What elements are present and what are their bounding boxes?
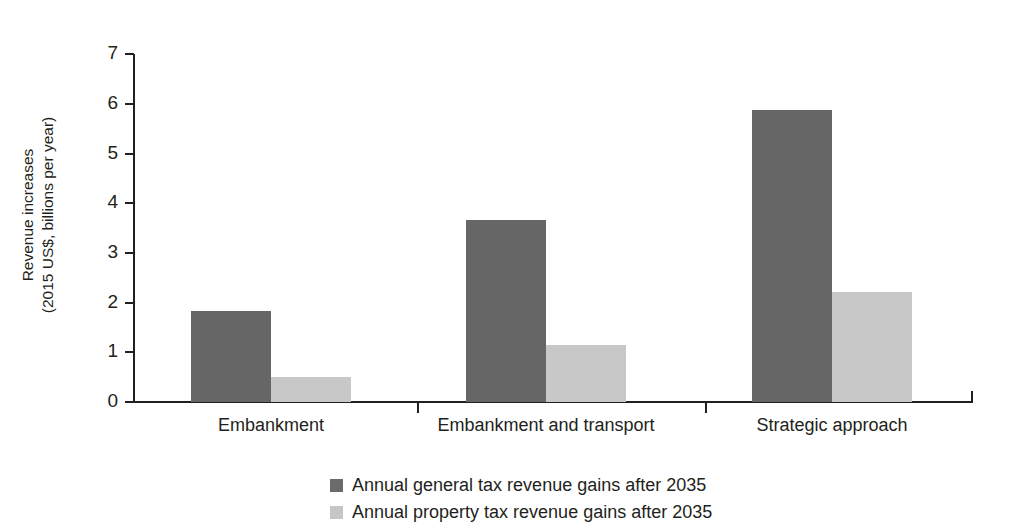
legend-item-label: Annual general tax revenue gains after 2… <box>352 475 706 496</box>
x-axis-tick <box>417 403 419 413</box>
bar <box>191 311 271 402</box>
y-axis-tick <box>125 53 134 55</box>
y-axis-tick <box>125 202 134 204</box>
legend-item: Annual general tax revenue gains after 2… <box>330 472 712 499</box>
bar <box>546 345 626 402</box>
bar <box>832 292 912 402</box>
y-axis-tick-label: 3 <box>86 241 118 263</box>
y-axis-tick-label: 5 <box>86 142 118 164</box>
bar <box>271 377 351 402</box>
y-axis-tick-label: 7 <box>86 42 118 64</box>
chart-legend: Annual general tax revenue gains after 2… <box>330 472 712 526</box>
x-axis-end-tick <box>971 391 973 403</box>
y-axis-tick <box>125 401 134 403</box>
bar <box>466 220 546 402</box>
y-axis-tick <box>125 103 134 105</box>
y-axis-tick-label: 2 <box>86 291 118 313</box>
bar <box>752 110 832 402</box>
legend-item-label: Annual property tax revenue gains after … <box>352 502 712 523</box>
x-axis-tick <box>705 403 707 413</box>
y-axis-tick <box>125 351 134 353</box>
legend-swatch-icon <box>330 506 343 519</box>
legend-item: Annual property tax revenue gains after … <box>330 499 712 526</box>
y-axis-tick-label: 4 <box>86 191 118 213</box>
y-axis-title: Revenue increases (2015 US$, billions pe… <box>18 35 58 395</box>
y-axis-tick-label: 1 <box>86 340 118 362</box>
y-axis-tick <box>125 302 134 304</box>
legend-swatch-icon <box>330 479 343 492</box>
y-axis-tick <box>125 153 134 155</box>
y-axis-tick <box>125 252 134 254</box>
y-axis-tick-label: 0 <box>86 390 118 412</box>
bar-chart-figure: Revenue increases (2015 US$, billions pe… <box>0 0 1009 531</box>
y-axis-tick-label: 6 <box>86 92 118 114</box>
x-axis-category-label: Strategic approach <box>632 415 1009 436</box>
